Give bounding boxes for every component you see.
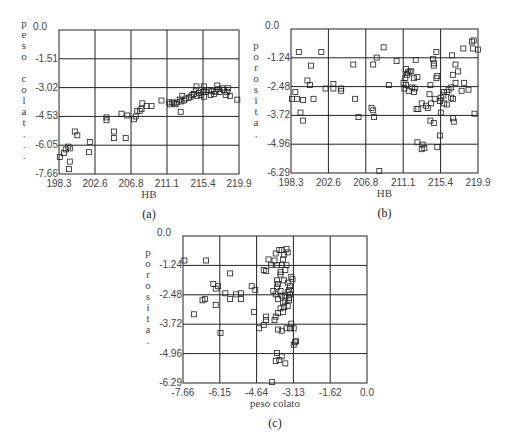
x-tick-label: 219.9 <box>465 177 490 188</box>
data-point-marker <box>295 96 300 101</box>
plot-frame <box>59 30 239 174</box>
x-axis-label: HB <box>377 187 392 199</box>
data-point-marker <box>311 96 316 101</box>
figure-caption: (b) <box>378 206 392 220</box>
data-point-marker <box>274 350 279 355</box>
data-point-marker <box>280 257 285 262</box>
data-point-marker <box>462 80 467 85</box>
x-tick-label: 219.9 <box>226 178 251 189</box>
figure-caption: (c) <box>268 416 281 430</box>
data-point-marker <box>149 104 154 109</box>
y-tick-label: -3.72 <box>267 109 290 120</box>
y-tick-label: 0.0 <box>265 20 279 31</box>
data-point-marker <box>213 302 218 307</box>
data-point-marker <box>278 288 283 293</box>
x-tick-label: 198.3 <box>278 177 303 188</box>
figure-canvas: 198.3202.6206.8211.1215.4219.90.0-1.51-3… <box>0 0 507 446</box>
data-point-marker <box>414 107 419 112</box>
data-point-marker <box>394 59 399 64</box>
data-point-marker <box>435 144 440 149</box>
data-point-marker <box>276 281 281 286</box>
data-point-marker <box>276 327 281 332</box>
y-tick-label: -4.96 <box>159 348 182 359</box>
y-tick-label: -6.29 <box>267 167 290 178</box>
data-point-marker <box>123 136 128 141</box>
data-point-marker <box>427 92 432 97</box>
y-tick-label: -1.24 <box>159 259 182 270</box>
data-point-marker <box>381 45 386 50</box>
data-point-marker <box>284 326 289 331</box>
x-tick-label: 0.0 <box>360 387 374 398</box>
data-point-marker <box>301 118 306 123</box>
x-tick-label: 211.1 <box>391 177 416 188</box>
data-point-marker <box>283 361 288 366</box>
y-tick-label: -6.29 <box>159 377 182 388</box>
data-point-marker <box>466 87 471 92</box>
x-tick-label: 202.6 <box>316 177 341 188</box>
data-point-marker <box>211 281 216 286</box>
data-point-marker <box>279 293 284 298</box>
y-tick-label: -4.96 <box>267 138 290 149</box>
data-point-marker <box>296 49 301 54</box>
y-tick-label: 0.0 <box>157 227 171 238</box>
data-point-marker <box>274 278 279 283</box>
x-tick-label: 215.4 <box>428 177 453 188</box>
data-point-marker <box>178 109 183 114</box>
x-tick-label: 206.8 <box>353 177 378 188</box>
data-point-marker <box>256 326 261 331</box>
data-point-marker <box>301 98 306 103</box>
data-point-marker <box>416 107 421 112</box>
data-point-marker <box>249 284 254 289</box>
data-point-marker <box>353 96 358 101</box>
data-point-marker <box>266 257 271 262</box>
y-tick-label: -2.48 <box>267 81 290 92</box>
data-point-marker <box>159 98 164 103</box>
x-tick-label: -6.15 <box>208 387 231 398</box>
data-point-marker <box>264 318 269 323</box>
data-point-marker <box>450 53 455 58</box>
y-tick-label: -4.53 <box>35 110 58 121</box>
x-tick-label: 202.6 <box>82 178 107 189</box>
data-point-marker <box>238 297 243 302</box>
data-point-marker <box>469 39 474 44</box>
y-tick-label: -2.48 <box>159 289 182 300</box>
data-point-marker <box>87 139 92 144</box>
y-tick-label: -7.66 <box>35 168 58 179</box>
scatter-plot-a: 198.3202.6206.8211.1215.4219.90.0-1.51-3… <box>21 17 252 221</box>
data-point-marker <box>87 150 92 155</box>
data-point-marker <box>112 129 117 134</box>
data-point-marker <box>112 136 117 141</box>
data-point-marker <box>270 380 275 385</box>
y-tick-label: -3.02 <box>35 82 58 93</box>
data-point-marker <box>437 133 442 138</box>
data-point-marker <box>461 46 466 51</box>
y-tick-label: -6.05 <box>35 139 58 150</box>
y-axis-label-char: . <box>147 334 150 346</box>
data-point-marker <box>308 63 313 68</box>
data-point-marker <box>276 297 281 302</box>
data-point-marker <box>453 62 458 67</box>
x-axis-label: peso colato <box>250 397 300 409</box>
data-point-marker <box>228 297 233 302</box>
scatter-plot-b: 198.3202.6206.8211.1215.4219.90.0-1.24-2… <box>253 20 491 220</box>
data-point-marker <box>218 331 223 336</box>
data-point-marker <box>434 49 439 54</box>
y-tick-label: 0.0 <box>33 21 47 32</box>
data-point-marker <box>279 328 284 333</box>
data-point-marker <box>272 258 277 263</box>
x-tick-label: -7.66 <box>172 387 195 398</box>
data-point-marker <box>272 318 277 323</box>
data-point-marker <box>456 69 461 74</box>
data-point-marker <box>119 111 124 116</box>
data-point-marker <box>261 322 266 327</box>
x-tick-label: 215.4 <box>190 178 215 189</box>
x-tick-label: 211.1 <box>155 178 180 189</box>
data-point-marker <box>293 90 298 95</box>
data-point-marker <box>289 96 294 101</box>
data-point-marker <box>284 246 289 251</box>
x-tick-label: -1.62 <box>319 387 342 398</box>
data-point-marker <box>228 271 233 276</box>
data-point-marker <box>319 49 324 54</box>
y-tick-label: -1.24 <box>267 52 290 63</box>
data-point-marker <box>192 312 197 317</box>
